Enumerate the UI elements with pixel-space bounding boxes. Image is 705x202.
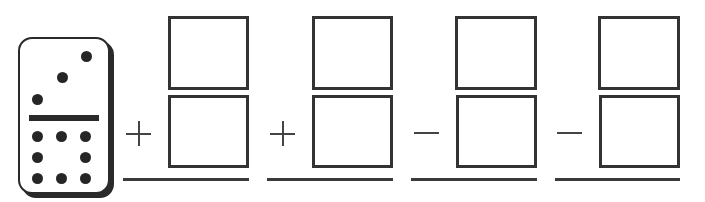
domino-pip-top <box>32 94 43 105</box>
answer-line-2 <box>267 178 393 181</box>
answer-box-bottom-4[interactable] <box>599 95 680 168</box>
domino-pip-top <box>57 72 68 83</box>
domino-pip-bottom <box>56 173 67 184</box>
answer-box-bottom-2[interactable] <box>312 95 393 168</box>
domino-pip-bottom <box>32 173 43 184</box>
domino-tile <box>18 37 110 194</box>
domino-pip-bottom <box>32 131 43 142</box>
answer-line-4 <box>555 178 680 181</box>
answer-box-top-1[interactable] <box>168 16 249 90</box>
answer-line-1 <box>123 178 249 181</box>
domino-pip-bottom <box>80 131 91 142</box>
answer-line-3 <box>411 178 537 181</box>
domino-pip-bottom <box>56 131 67 142</box>
answer-box-top-4[interactable] <box>598 16 680 90</box>
answer-box-bottom-1[interactable] <box>168 95 249 168</box>
domino-body <box>18 37 110 194</box>
answer-box-top-2[interactable] <box>312 16 393 90</box>
domino-pip-top <box>81 51 92 62</box>
domino-pip-bottom <box>80 152 91 163</box>
answer-box-top-3[interactable] <box>455 16 537 90</box>
domino-pip-bottom <box>32 152 43 163</box>
domino-divider <box>29 115 99 121</box>
answer-box-bottom-3[interactable] <box>456 95 537 168</box>
domino-pip-bottom <box>80 173 91 184</box>
